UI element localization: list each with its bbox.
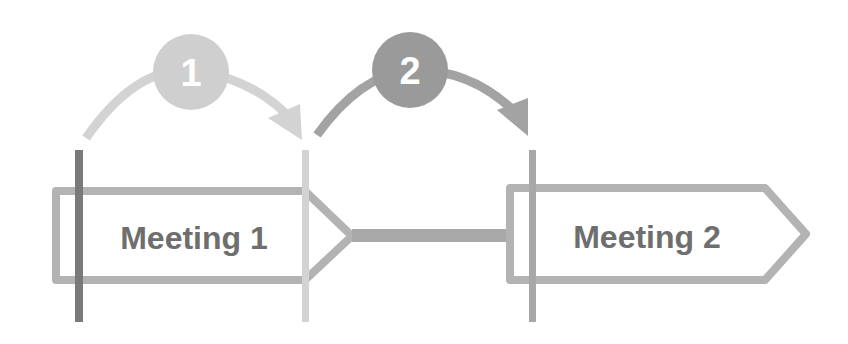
meeting-2-label: Meeting 2	[573, 219, 721, 255]
marker-start-meeting-1	[75, 150, 83, 322]
meeting-flow-diagram: 1 2 Meeting 1 Meeting 2	[0, 0, 848, 344]
meeting-1-label: Meeting 1	[120, 220, 268, 256]
marker-end-meeting-1	[302, 150, 309, 322]
step-1-badge: 1	[153, 34, 229, 110]
step-2-number: 2	[399, 50, 420, 92]
marker-start-meeting-2	[529, 150, 536, 322]
connector-bar	[352, 229, 512, 242]
step-1-number: 1	[180, 52, 201, 94]
meeting-2-box: Meeting 2	[510, 188, 806, 280]
step-2-badge: 2	[372, 32, 448, 108]
